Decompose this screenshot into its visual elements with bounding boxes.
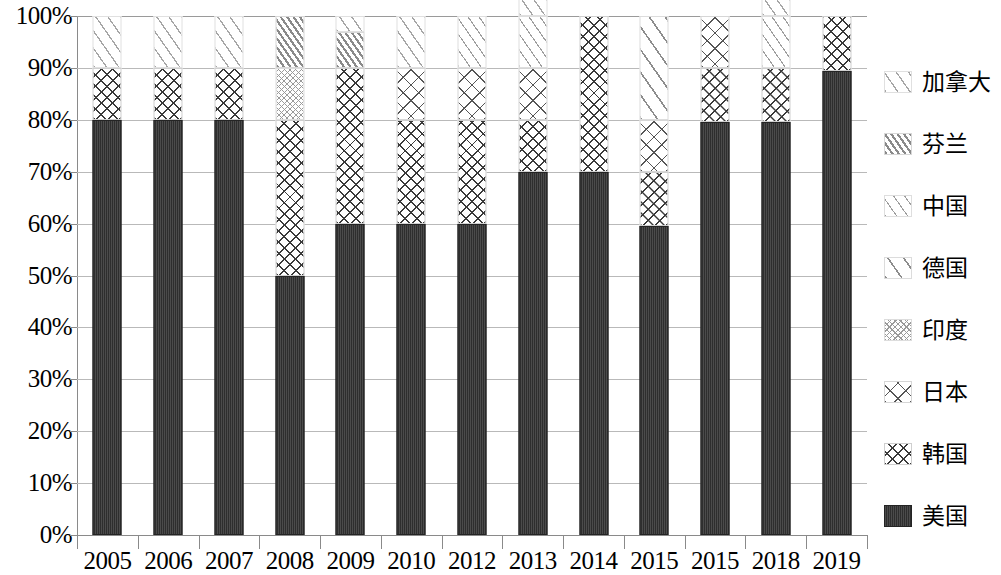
bar-slot — [442, 16, 503, 535]
bar-slot — [138, 16, 199, 535]
bar-segment-korea[interactable] — [761, 68, 790, 122]
bar-stack[interactable] — [579, 16, 608, 535]
bar-segment-usa[interactable] — [457, 224, 486, 535]
y-tick-mark — [70, 379, 77, 380]
bar-segment-korea[interactable] — [457, 120, 486, 224]
bar-segment-germany[interactable] — [640, 16, 669, 120]
bar-slot — [259, 16, 320, 535]
bar-stack[interactable] — [761, 16, 790, 535]
x-tick-label: 2005 — [77, 546, 138, 575]
stacked-bar-chart: 0%10%20%30%40%50%60%70%80%90%100% 200520… — [0, 0, 1001, 575]
legend-item-india[interactable]: 印度 — [884, 317, 1001, 343]
x-axis-labels: 2005200620072008200920102012201320142015… — [77, 546, 867, 575]
bar-segment-japan[interactable] — [457, 68, 486, 120]
x-tick-label: 2013 — [502, 546, 563, 575]
legend-label: 印度 — [922, 317, 968, 343]
legend-label: 日本 — [922, 379, 968, 405]
legend-item-canada[interactable]: 加拿大 — [884, 69, 1001, 95]
legend-item-germany[interactable]: 德国 — [884, 255, 1001, 281]
bar-segment-canada[interactable] — [761, 0, 790, 16]
bar-segment-finland[interactable] — [275, 16, 304, 68]
legend-label: 美国 — [922, 503, 968, 529]
bar-segment-canada[interactable] — [518, 0, 547, 16]
bar-slot — [685, 16, 746, 535]
bar-segment-usa[interactable] — [579, 172, 608, 535]
legend-item-korea[interactable]: 韩国 — [884, 441, 1001, 467]
plot-area — [77, 16, 867, 535]
bar-segment-usa[interactable] — [701, 122, 730, 535]
bar-segment-usa[interactable] — [154, 120, 183, 535]
bar-segment-usa[interactable] — [336, 224, 365, 535]
legend-item-japan[interactable]: 日本 — [884, 379, 1001, 405]
bar-segment-canada[interactable] — [397, 16, 426, 68]
bar-segment-korea[interactable] — [518, 120, 547, 172]
bar-segment-korea[interactable] — [822, 16, 851, 70]
bar-segment-usa[interactable] — [640, 226, 669, 535]
bar-stack[interactable] — [518, 16, 547, 535]
bar-segment-korea[interactable] — [336, 68, 365, 224]
bar-slot — [806, 16, 867, 535]
chart-legend: 加拿大芬兰中国德国印度日本韩国美国 — [884, 0, 1001, 575]
x-tick-label: 2015 — [624, 546, 685, 575]
x-tick-mark — [867, 535, 868, 549]
bar-segment-china[interactable] — [518, 16, 547, 68]
bar-segment-japan[interactable] — [701, 16, 730, 68]
bar-segment-usa[interactable] — [93, 120, 122, 535]
bar-stack[interactable] — [457, 16, 486, 535]
legend-swatch-canada-icon — [884, 71, 912, 93]
y-tick-mark — [70, 431, 77, 432]
bar-slot — [199, 16, 260, 535]
bar-segment-canada[interactable] — [93, 16, 122, 68]
bar-segment-india[interactable] — [275, 68, 304, 120]
bar-stack[interactable] — [154, 16, 183, 535]
legend-label: 韩国 — [922, 441, 968, 467]
bar-segment-japan[interactable] — [397, 68, 426, 120]
bar-stack[interactable] — [336, 16, 365, 535]
bar-slot — [320, 16, 381, 535]
bar-segment-usa[interactable] — [761, 122, 790, 535]
bar-segment-usa[interactable] — [214, 120, 243, 535]
bar-segment-korea[interactable] — [93, 68, 122, 120]
y-tick-mark — [70, 224, 77, 225]
bar-segment-usa[interactable] — [397, 224, 426, 535]
bar-stack[interactable] — [640, 16, 669, 535]
bar-segment-china[interactable] — [761, 16, 790, 68]
bar-stack[interactable] — [275, 16, 304, 535]
legend-item-china[interactable]: 中国 — [884, 193, 1001, 219]
y-tick-mark — [70, 172, 77, 173]
bar-segment-japan[interactable] — [518, 68, 547, 120]
x-tick-label: 2018 — [745, 546, 806, 575]
bar-stack[interactable] — [214, 16, 243, 535]
x-tick-label: 2014 — [563, 546, 624, 575]
bar-segment-finland[interactable] — [336, 32, 365, 68]
bar-segment-korea[interactable] — [701, 68, 730, 122]
bar-slot — [624, 16, 685, 535]
bar-segment-canada[interactable] — [214, 16, 243, 68]
bar-stack[interactable] — [397, 16, 426, 535]
bar-segment-korea[interactable] — [214, 68, 243, 120]
bar-segment-canada[interactable] — [154, 16, 183, 68]
bar-segment-canada[interactable] — [336, 16, 365, 32]
bar-segment-korea[interactable] — [397, 120, 426, 224]
bar-stack[interactable] — [822, 16, 851, 535]
bar-segment-korea[interactable] — [275, 120, 304, 276]
legend-item-finland[interactable]: 芬兰 — [884, 131, 1001, 157]
bar-segment-korea[interactable] — [579, 16, 608, 172]
legend-swatch-korea-icon — [884, 443, 912, 465]
bar-segment-japan[interactable] — [640, 120, 669, 172]
y-tick-mark — [70, 276, 77, 277]
bar-segment-china[interactable] — [457, 16, 486, 68]
bar-segment-korea[interactable] — [154, 68, 183, 120]
bar-stack[interactable] — [701, 16, 730, 535]
bar-segment-usa[interactable] — [518, 172, 547, 535]
bar-segment-usa[interactable] — [822, 71, 851, 536]
legend-label: 德国 — [922, 255, 968, 281]
bar-segment-usa[interactable] — [275, 276, 304, 536]
legend-swatch-finland-icon — [884, 133, 912, 155]
legend-item-usa[interactable]: 美国 — [884, 503, 1001, 529]
y-axis-ticks — [0, 16, 77, 535]
x-tick-label: 2015 — [685, 546, 746, 575]
bar-slot — [745, 16, 806, 535]
bar-segment-korea[interactable] — [640, 172, 669, 226]
bar-stack[interactable] — [93, 16, 122, 535]
